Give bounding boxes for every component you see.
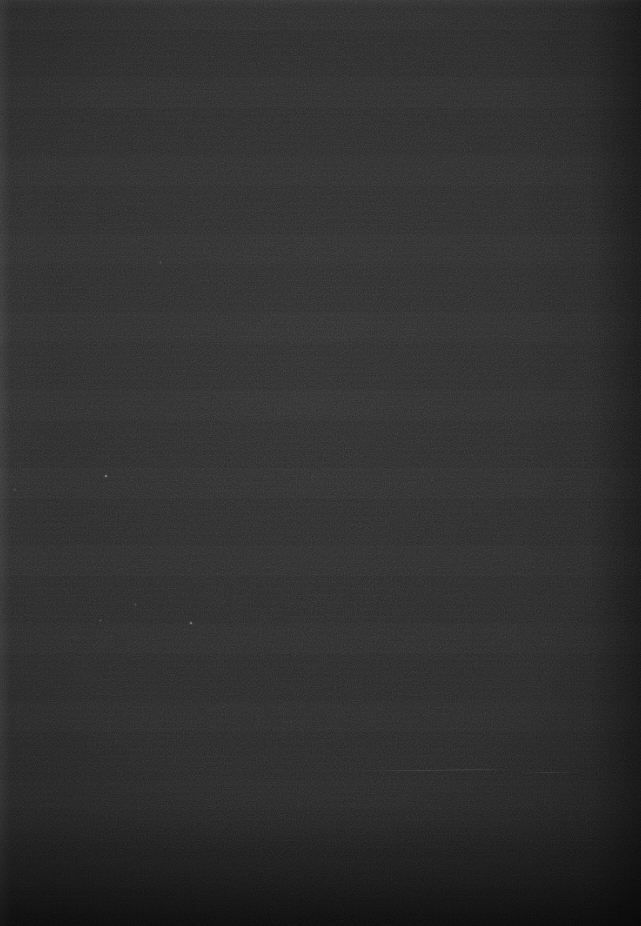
right-edge-margin <box>589 0 641 926</box>
streak-a <box>360 770 480 771</box>
fine-horizontal-banding <box>0 0 641 926</box>
left-edge-strip <box>0 0 11 926</box>
dark-frame-image <box>0 0 641 926</box>
speck-c <box>190 622 192 624</box>
speck-b <box>100 620 101 621</box>
streak-b <box>440 769 510 770</box>
streak-c <box>520 772 580 773</box>
speck-a <box>105 475 107 477</box>
speck-f <box>135 604 136 605</box>
top-edge-highlight <box>0 0 641 9</box>
speck-e <box>14 489 15 490</box>
speck-d <box>160 262 161 263</box>
bottom-edge-band <box>0 818 641 926</box>
